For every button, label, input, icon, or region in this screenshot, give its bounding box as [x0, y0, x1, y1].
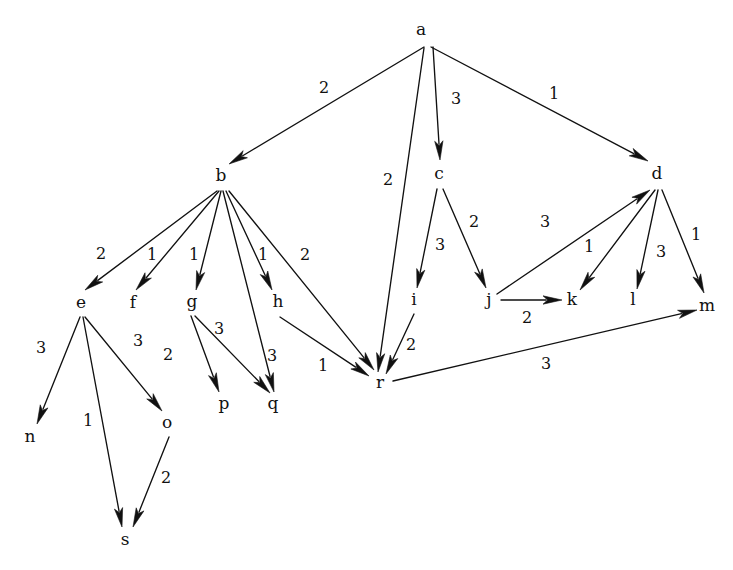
edge-line: [223, 191, 270, 376]
edge-line: [433, 47, 439, 144]
edge-line: [393, 314, 681, 381]
graph-node-d[interactable]: d: [652, 163, 663, 183]
graph-node-b[interactable]: b: [216, 165, 227, 185]
edge-weight-e-o: 3: [133, 331, 143, 350]
graph-svg: 23122111323213131322312323 abcdefghijklm…: [0, 0, 733, 570]
graph-node-s[interactable]: s: [121, 529, 130, 549]
edge-line: [380, 48, 424, 356]
graph-edge-a-r: [377, 48, 424, 372]
edge-weight-b-f: 1: [147, 245, 157, 264]
edge-weight-a-c: 3: [451, 89, 461, 108]
edge-weight-e-n: 3: [36, 338, 46, 357]
graph-node-g[interactable]: g: [187, 291, 198, 311]
graph-edge-g-q: [195, 316, 270, 393]
graph-node-e[interactable]: e: [76, 292, 86, 312]
edge-line: [431, 47, 634, 154]
arrowhead-icon: [580, 272, 595, 290]
arrowhead-icon: [632, 190, 650, 204]
edge-line: [420, 189, 437, 272]
graph-node-a[interactable]: a: [416, 19, 426, 39]
arrowhead-icon: [209, 373, 219, 392]
node-layer: abcdefghijklmnopqrs: [25, 19, 716, 549]
edge-weight-d-k: 1: [584, 237, 594, 256]
graph-edge-b-f: [136, 191, 219, 290]
graph-node-q[interactable]: q: [268, 393, 279, 413]
graph-edge-j-d: [497, 190, 650, 294]
graph-edge-c-j: [443, 189, 486, 288]
graph-edge-j-k: [501, 296, 562, 304]
edge-line: [497, 199, 637, 294]
edge-line: [195, 316, 259, 382]
graph-node-r[interactable]: r: [376, 372, 385, 392]
graph-edge-b-r: [229, 191, 374, 370]
edge-line: [590, 190, 655, 277]
arrowhead-icon: [629, 148, 648, 161]
graph-node-h[interactable]: h: [273, 291, 284, 311]
graph-edge-e-n: [37, 317, 80, 424]
edge-weight-layer: 23122111323213131322312323: [36, 78, 701, 487]
edge-line: [85, 317, 152, 399]
graph-edge-b-g: [196, 191, 221, 290]
arrowhead-icon: [85, 275, 103, 290]
edge-weight-b-g: 1: [189, 245, 199, 264]
arrowhead-icon: [693, 274, 704, 293]
edge-weight-g-q: 3: [214, 319, 224, 338]
graph-diagram-canvas: 23122111323213131322312323 abcdefghijklm…: [0, 0, 733, 570]
graph-edge-e-o: [85, 317, 162, 411]
edge-weight-r-m: 3: [541, 354, 551, 373]
edge-weight-e-s: 1: [83, 411, 93, 430]
edge-line: [229, 191, 364, 358]
edge-weight-a-b: 2: [319, 78, 329, 97]
graph-node-k[interactable]: k: [567, 289, 578, 309]
arrowhead-icon: [37, 405, 48, 424]
edge-line: [191, 316, 213, 377]
graph-node-f[interactable]: f: [130, 292, 138, 312]
arrowhead-icon: [260, 271, 272, 290]
edge-weight-d-m: 1: [691, 225, 701, 244]
edge-weight-j-d: 3: [540, 212, 550, 231]
edge-weight-a-r: 2: [383, 170, 393, 189]
edge-weight-a-d: 1: [549, 84, 559, 103]
graph-edge-a-d: [431, 47, 648, 161]
arrowhead-icon: [229, 151, 247, 164]
edge-line: [640, 190, 658, 273]
edge-weight-b-e: 2: [96, 244, 106, 263]
graph-edge-d-l: [637, 190, 658, 289]
graph-edge-a-c: [433, 47, 443, 160]
edge-line: [98, 191, 217, 280]
graph-node-p[interactable]: p: [219, 393, 230, 413]
edge-weight-j-k: 2: [522, 308, 532, 327]
edge-weight-b-r: 2: [300, 245, 310, 264]
edge-weight-c-i: 3: [435, 235, 445, 254]
edge-weight-h-r: 1: [318, 356, 328, 375]
arrowhead-icon: [386, 355, 398, 374]
arrowhead-icon: [133, 508, 144, 527]
edge-weight-b-h: 1: [258, 245, 268, 264]
edge-weight-g-p: 2: [163, 345, 173, 364]
graph-edge-b-h: [226, 191, 272, 290]
edge-weight-i-r: 2: [406, 335, 416, 354]
graph-edge-a-b: [229, 47, 424, 164]
graph-node-j[interactable]: j: [484, 289, 491, 309]
edge-line: [146, 191, 219, 278]
graph-node-m[interactable]: m: [699, 295, 715, 315]
graph-node-c[interactable]: c: [434, 163, 444, 183]
arrowhead-icon: [147, 394, 162, 411]
edge-line: [243, 47, 424, 156]
edge-weight-o-s: 2: [161, 468, 171, 487]
edge-weight-c-j: 2: [469, 212, 479, 231]
arrowhead-icon: [475, 269, 486, 288]
edge-weight-b-q: 3: [267, 346, 277, 365]
edge-line: [443, 189, 480, 273]
graph-node-l[interactable]: l: [630, 289, 635, 309]
edge-weight-d-l: 3: [656, 242, 666, 261]
graph-node-n[interactable]: n: [25, 426, 36, 446]
graph-node-i[interactable]: i: [411, 289, 417, 309]
graph-node-o[interactable]: o: [162, 412, 172, 432]
edge-line: [43, 317, 80, 409]
arrowhead-icon: [359, 353, 374, 370]
edge-layer: [37, 47, 704, 527]
edge-line: [200, 191, 221, 274]
